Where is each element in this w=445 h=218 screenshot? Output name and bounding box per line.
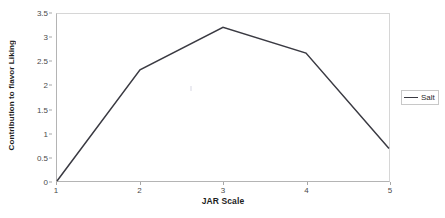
- y-tick-mark: [49, 182, 52, 183]
- y-tick-mark: [49, 109, 52, 110]
- y-tick-label: 0: [44, 178, 48, 187]
- chart-container: Contribution to flavor Liking 00.511.522…: [0, 0, 445, 218]
- y-tick-label: 0.5: [37, 153, 48, 162]
- chart-legend: Salt: [401, 90, 439, 105]
- y-axis-title-text: Contribution to flavor Liking: [7, 40, 16, 150]
- y-tick-mark: [49, 13, 52, 14]
- y-tick-label: 1.5: [37, 105, 48, 114]
- x-axis-title: JAR Scale: [56, 196, 390, 206]
- x-tick-mark: [390, 182, 391, 185]
- legend-label-salt: Salt: [421, 93, 435, 102]
- y-tick-mark: [49, 157, 52, 158]
- x-tick-label: 5: [388, 186, 392, 195]
- compression-artifact-speck: [190, 86, 192, 91]
- x-tick-mark: [140, 182, 141, 185]
- x-tick-mark: [307, 182, 308, 185]
- x-tick-label: 1: [54, 186, 58, 195]
- y-tick-label: 2.5: [37, 57, 48, 66]
- x-tick-mark: [56, 182, 57, 185]
- x-tick-mark: [223, 182, 224, 185]
- plot-area: [56, 13, 390, 182]
- y-tick-mark: [49, 85, 52, 86]
- y-axis-tick-labels: 00.511.522.533.5: [22, 0, 52, 218]
- x-tick-label: 3: [221, 186, 225, 195]
- series-line-svg: [57, 14, 389, 181]
- y-tick-label: 1: [44, 129, 48, 138]
- x-tick-label: 2: [137, 186, 141, 195]
- y-tick-mark: [49, 133, 52, 134]
- legend-line-swatch-salt: [404, 97, 418, 98]
- y-tick-label: 2: [44, 81, 48, 90]
- x-tick-label: 4: [304, 186, 308, 195]
- series-line-salt: [57, 27, 389, 181]
- y-tick-mark: [49, 61, 52, 62]
- y-tick-label: 3.5: [37, 9, 48, 18]
- y-axis-title: Contribution to flavor Liking: [0, 0, 22, 190]
- y-tick-mark: [49, 37, 52, 38]
- y-tick-label: 3: [44, 33, 48, 42]
